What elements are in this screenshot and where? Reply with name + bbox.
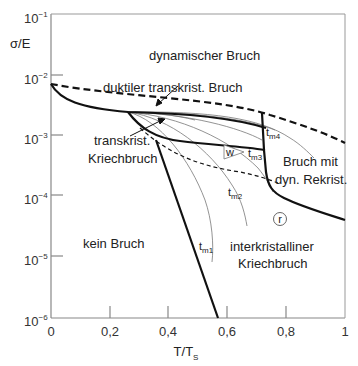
region-intercrystalline-creep-1: interkristalliner [230, 239, 314, 254]
svg-text:0,2: 0,2 [101, 324, 119, 339]
region-no-fracture: kein Bruch [83, 236, 144, 251]
region-dynamic-fracture: dynamischer Bruch [149, 48, 260, 63]
region-transcrystalline-creep-1: transkrist. [94, 133, 150, 148]
region-intercrystalline-creep-2: Kriechbruch [238, 256, 307, 271]
svg-text:10−2: 10−2 [24, 71, 48, 87]
svg-text:0,6: 0,6 [218, 324, 236, 339]
x-axis-ticks [110, 306, 286, 318]
x-axis-label: T/TS [174, 344, 199, 362]
svg-text:w: w [225, 146, 234, 158]
region-dyn-recryst-2: dyn. Rekrist. [275, 172, 347, 187]
time-label-tm2: tm2 [228, 186, 243, 201]
svg-text:r: r [278, 213, 282, 225]
svg-text:10−4: 10−4 [24, 191, 48, 207]
time-label-tm4: tm4 [266, 126, 281, 141]
time-label-tm1: tm1 [199, 240, 214, 255]
y-axis-ticks [51, 75, 63, 256]
svg-text:10−5: 10−5 [24, 252, 48, 268]
region-ductile-transcrystalline: duktiler transkrist. Bruch [103, 80, 242, 95]
svg-text:0,8: 0,8 [277, 324, 295, 339]
region-dyn-recryst-1: Bruch mit [283, 154, 338, 169]
svg-text:0,4: 0,4 [159, 324, 177, 339]
region-transcrystalline-creep-2: Kriechbruch [88, 151, 157, 166]
svg-text:10−1: 10−1 [24, 10, 48, 26]
svg-text:1: 1 [341, 324, 348, 339]
svg-text:0: 0 [47, 324, 54, 339]
svg-text:10−6: 10−6 [24, 313, 48, 329]
y-axis-label: σ/E [10, 36, 31, 51]
thick-boundaries [51, 84, 345, 318]
r-marker: r [274, 213, 287, 226]
x-tick-labels: 0 0,2 0,4 0,6 0,8 1 [47, 324, 348, 339]
svg-text:10−3: 10−3 [24, 131, 48, 147]
y-tick-labels: 10−1 10−2 10−3 10−4 10−5 10−6 [24, 10, 48, 329]
fracture-mechanism-map: 10−1 10−2 10−3 10−4 10−5 10−6 σ/E 0 0,2 … [0, 0, 358, 366]
